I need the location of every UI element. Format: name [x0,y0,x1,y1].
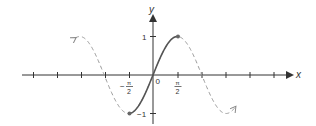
x-axis-label: x [295,69,302,80]
x-tick-label-pi-over-2: π 2 [175,80,182,95]
y-axis-label: y [148,4,155,15]
y-tick-label-neg1: −1 [137,110,147,119]
svg-text:−: − [120,82,125,91]
svg-text:π: π [176,80,180,86]
svg-text:π: π [127,80,131,86]
endpoint-min [128,112,132,116]
x-tick-label-neg-pi-over-2: − π 2 [120,80,133,95]
sine-graph: y x 0 1 −1 − π 2 π 2 [0,0,316,126]
svg-text:2: 2 [127,88,131,95]
y-tick-label-1: 1 [142,33,147,42]
svg-text:2: 2 [176,88,180,95]
endpoint-max [176,35,180,39]
origin-label: 0 [156,77,161,86]
